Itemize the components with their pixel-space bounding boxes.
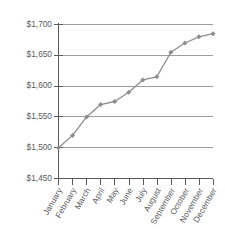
y-axis-labels: $1,700 $1,650 $1,600 $1,550 $1,500 $1,45… (27, 19, 53, 183)
chart-canvas: $1,700 $1,650 $1,600 $1,550 $1,500 $1,45… (0, 0, 225, 247)
x-axis-label-april: April (90, 186, 107, 206)
y-axis (54, 23, 63, 180)
data-point-august (154, 74, 159, 79)
series-markers (56, 31, 216, 150)
data-series (56, 31, 216, 150)
x-axis-label-june: June (117, 186, 135, 207)
series-line (59, 34, 214, 148)
line-chart: $1,700 $1,650 $1,600 $1,550 $1,500 $1,45… (0, 0, 225, 247)
y-axis-label-1700: $1,700 (27, 19, 53, 29)
y-axis-label-1650: $1,650 (27, 49, 53, 59)
x-axis (58, 179, 213, 185)
data-point-december (211, 31, 216, 36)
gridlines (58, 25, 213, 179)
y-axis-label-1550: $1,550 (27, 111, 53, 121)
y-axis-label-1450: $1,450 (27, 173, 53, 183)
data-point-november (196, 34, 201, 39)
x-axis-labels: January February March April May June Ju… (41, 185, 219, 226)
y-axis-label-1600: $1,600 (27, 80, 53, 90)
y-axis-label-1500: $1,500 (27, 142, 53, 152)
